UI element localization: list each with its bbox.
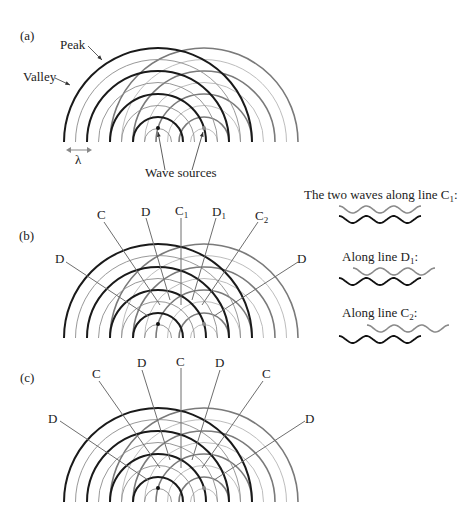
valley-label: Valley xyxy=(23,70,56,84)
wave-source-left-dot xyxy=(156,126,160,130)
wave-d1-gray xyxy=(353,268,435,275)
inset-c1-title: The two waves along line C1: xyxy=(304,188,458,202)
wave-insets xyxy=(339,206,449,343)
wave-source-right-dot xyxy=(202,486,206,490)
line-label-c-center-c: C xyxy=(176,355,185,369)
baseline-mask xyxy=(0,502,340,508)
baseline-mask xyxy=(0,338,340,344)
panel-c-wave-pattern xyxy=(0,368,340,508)
line-label-c2: C2 xyxy=(255,209,268,223)
wave-c1-black xyxy=(339,216,421,223)
valley-wavefront-right xyxy=(145,83,264,142)
line-label-c-left: C xyxy=(97,208,106,222)
peak-label: Peak xyxy=(60,38,85,52)
peak-wavefront-right xyxy=(156,454,252,502)
panel-c-label: (c) xyxy=(20,371,34,385)
interference-line xyxy=(142,370,170,460)
line-label-d-mid-left: D xyxy=(141,205,150,219)
panel-a-wave-pattern xyxy=(0,46,340,170)
line-label-c-left-c: C xyxy=(92,367,101,381)
wave-source-left-dot xyxy=(156,322,160,326)
line-label-d-mid-left-c: D xyxy=(137,356,146,370)
wave-sources-label: Wave sources xyxy=(145,166,217,180)
baseline-mask xyxy=(0,142,340,148)
interference-line xyxy=(192,218,216,300)
wave-c2-gray xyxy=(367,325,449,332)
wavelength-label: λ xyxy=(75,153,81,167)
valley-wavefront-left xyxy=(99,443,218,502)
line-label-d-far-right: D xyxy=(297,252,306,266)
peak-wavefront-left xyxy=(87,71,229,142)
wave-d1-black xyxy=(339,278,421,285)
line-label-d-mid-right-c: D xyxy=(215,356,224,370)
wave-source-left-dot xyxy=(156,486,160,490)
panel-b-wave-pattern xyxy=(0,218,340,344)
line-label-c-right-c: C xyxy=(262,367,271,381)
wave-source-right-dot xyxy=(202,126,206,130)
line-label-d-far-left-c: D xyxy=(48,412,57,426)
inset-d1-title: Along line D1: xyxy=(342,250,418,264)
line-label-d-far-left: D xyxy=(55,252,64,266)
wave-c2-black xyxy=(339,336,421,343)
valley-wavefront-right xyxy=(145,279,264,338)
wave-c1-gray xyxy=(339,206,421,213)
peak-wavefront-right xyxy=(156,94,252,142)
line-label-d-far-right-c: D xyxy=(305,412,314,426)
line-label-d1: D1 xyxy=(212,205,226,219)
interference-line xyxy=(192,370,220,460)
interference-line xyxy=(60,421,148,480)
panel-a-label: (a) xyxy=(20,29,34,43)
peak-wavefront-left xyxy=(87,431,229,502)
interference-figure xyxy=(0,0,471,530)
line-label-c1-center: C1 xyxy=(175,204,188,218)
interference-line xyxy=(146,218,170,300)
valley-wavefront-right xyxy=(145,443,264,502)
peak-wavefront-right xyxy=(156,290,252,338)
interference-line xyxy=(214,421,305,480)
valley-wavefront-left xyxy=(99,279,218,338)
panel-b-label: (b) xyxy=(19,229,34,243)
wave-source-right-dot xyxy=(202,322,206,326)
source-right-arrow-head xyxy=(200,132,204,137)
inset-c2-title: Along line C2: xyxy=(342,306,417,320)
